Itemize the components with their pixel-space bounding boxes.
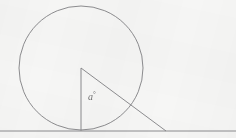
degree-icon: °	[93, 90, 96, 98]
angle-label: a°	[88, 91, 96, 102]
figure-container: a°	[0, 0, 236, 138]
geometry-figure	[0, 0, 236, 138]
